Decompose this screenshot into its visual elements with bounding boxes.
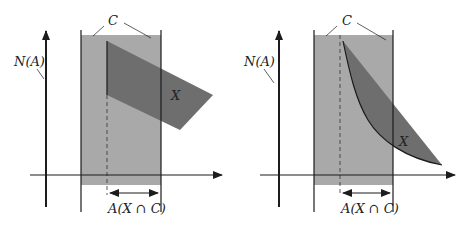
measure-label: A(X ∩ C)	[107, 201, 166, 216]
right-panel: N(A) C X A(X ∩ C)	[243, 13, 455, 216]
region-c-label: C	[108, 13, 118, 28]
diagram-figure: N(A) C X A(X ∩ C) N(A) C X A(X ∩ C)	[0, 0, 467, 225]
measure-label: A(X ∩ C)	[340, 201, 399, 216]
region-x-label: X	[170, 88, 181, 103]
y-axis-label: N(A)	[243, 54, 275, 69]
region-c-label: C	[342, 13, 352, 28]
left-panel: N(A) C X A(X ∩ C)	[13, 13, 222, 216]
region-x-label: X	[398, 134, 409, 149]
y-axis-label: N(A)	[13, 54, 45, 69]
